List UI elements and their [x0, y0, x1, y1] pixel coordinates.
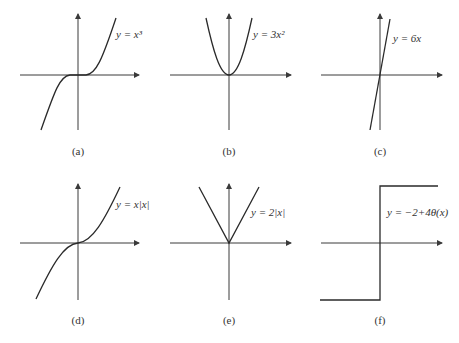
equation-label-c: y = 6x [393, 32, 421, 44]
equation-label-b: y = 3x² [253, 28, 285, 40]
equation-label-a: y = x³ [116, 28, 142, 40]
caption-d: (d) [58, 314, 98, 326]
panel-e-plot [170, 184, 291, 300]
caption-b: (b) [209, 145, 249, 157]
panel-c-plot [321, 14, 442, 130]
caption-c: (c) [360, 145, 400, 157]
panel-f-plot [320, 186, 442, 300]
figure-canvas [0, 0, 459, 343]
caption-a: (a) [58, 145, 98, 157]
equation-label-f: y = −2+4θ(x) [387, 206, 448, 218]
equation-label-e: y = 2|x| [251, 206, 285, 218]
caption-f: (f) [360, 314, 400, 326]
caption-e: (e) [209, 314, 249, 326]
equation-label-d: y = x|x| [116, 198, 150, 210]
